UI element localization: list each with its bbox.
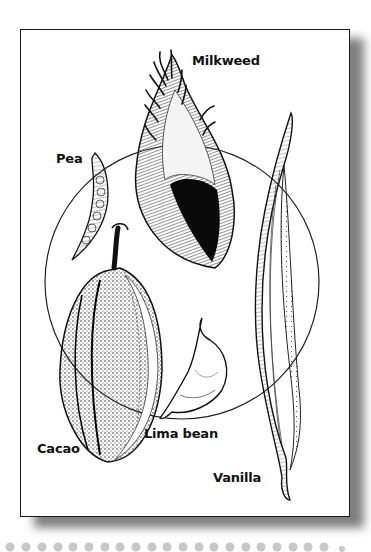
label-cacao: Cacao — [37, 441, 80, 456]
label-milkweed: Milkweed — [192, 53, 260, 68]
pea-pod-icon — [72, 153, 108, 260]
label-lima-bean: Lima bean — [144, 426, 218, 441]
milkweed-pod-icon — [136, 50, 235, 268]
label-pea: Pea — [56, 151, 83, 166]
dotted-divider — [0, 540, 371, 552]
label-vanilla: Vanilla — [213, 470, 261, 485]
lima-bean-pod-icon — [160, 318, 227, 419]
